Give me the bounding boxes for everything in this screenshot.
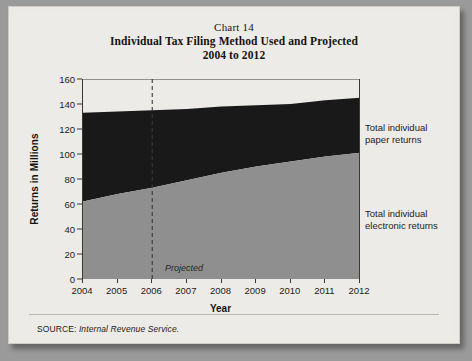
x-tick-mark xyxy=(255,279,256,283)
x-tick-mark xyxy=(359,279,360,283)
y-tick-label: 40 xyxy=(64,224,75,235)
legend-electronic-line1: Total individual xyxy=(365,208,438,220)
y-tick-mark xyxy=(77,229,82,230)
y-tick-mark xyxy=(77,254,82,255)
x-tick-label: 2004 xyxy=(71,285,92,296)
plot-area xyxy=(82,79,359,279)
x-tick-label: 2010 xyxy=(279,285,300,296)
x-tick-label: 2007 xyxy=(175,285,196,296)
chart-title-block: Chart 14 Individual Tax Filing Method Us… xyxy=(15,21,453,62)
y-tick-label: 160 xyxy=(59,74,75,85)
footer-divider xyxy=(29,314,439,315)
x-tick-mark xyxy=(117,279,118,283)
x-tick-label: 2012 xyxy=(348,285,369,296)
chart-number: Chart 14 xyxy=(15,21,453,34)
x-tick-label: 2005 xyxy=(106,285,127,296)
y-tick-label: 20 xyxy=(64,249,75,260)
y-tick-label: 80 xyxy=(64,174,75,185)
source-value: Internal Revenue Service. xyxy=(79,324,179,334)
x-tick-mark xyxy=(324,279,325,283)
y-tick-mark xyxy=(77,129,82,130)
projected-annotation: Projected xyxy=(165,263,203,273)
plot-wrapper: 020406080100120140160 200420052006200720… xyxy=(82,79,359,279)
y-tick-label: 140 xyxy=(59,99,75,110)
y-tick-mark xyxy=(77,204,82,205)
x-tick-label: 2008 xyxy=(210,285,231,296)
y-tick-mark xyxy=(77,79,82,80)
x-tick-mark xyxy=(290,279,291,283)
y-tick-label: 100 xyxy=(59,149,75,160)
legend-paper-line1: Total individual xyxy=(365,122,427,134)
y-tick-mark xyxy=(77,104,82,105)
x-tick-label: 2009 xyxy=(245,285,266,296)
y-axis-label: Returns in Millions xyxy=(29,79,43,279)
x-axis-label: Year xyxy=(82,303,359,314)
x-tick-label: 2006 xyxy=(141,285,162,296)
chart-title: Individual Tax Filing Method Used and Pr… xyxy=(15,34,453,48)
chart-page: Chart 14 Individual Tax Filing Method Us… xyxy=(8,6,460,344)
x-tick-label: 2011 xyxy=(314,285,334,296)
stacked-area-series xyxy=(83,79,360,279)
x-tick-mark xyxy=(221,279,222,283)
y-tick-label: 0 xyxy=(70,274,75,285)
x-tick-mark xyxy=(186,279,187,283)
legend-paper-returns: Total individual paper returns xyxy=(365,122,427,145)
x-tick-mark xyxy=(82,279,83,283)
y-tick-label: 60 xyxy=(64,199,75,210)
source-label: SOURCE: xyxy=(37,324,76,334)
screenshot-root: Chart 14 Individual Tax Filing Method Us… xyxy=(0,0,472,361)
legend-paper-line2: paper returns xyxy=(365,134,427,146)
y-tick-label: 120 xyxy=(59,124,75,135)
legend-electronic-returns: Total individual electronic returns xyxy=(365,208,438,231)
chart-subtitle: 2004 to 2012 xyxy=(15,48,453,62)
legend-electronic-line2: electronic returns xyxy=(365,220,438,232)
chart-frame: Chart 14 Individual Tax Filing Method Us… xyxy=(15,12,453,338)
x-tick-mark xyxy=(151,279,152,283)
y-tick-mark xyxy=(77,154,82,155)
source-note: SOURCE: Internal Revenue Service. xyxy=(37,324,179,334)
y-tick-mark xyxy=(77,179,82,180)
